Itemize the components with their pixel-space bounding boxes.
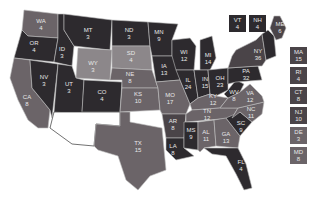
state-box-ev: 4 [229, 24, 246, 31]
state-box-md[interactable]: MD 8 [290, 147, 307, 164]
state-wa[interactable] [22, 10, 58, 38]
svg-text:MI14: MI14 [205, 52, 212, 65]
state-box-ri[interactable]: RI 4 [290, 67, 307, 84]
state-box-ev: 15 [290, 56, 307, 63]
us-map: WA4 OR4 CA8 ID3 NV3 MT3 WY3 UT3 CO4 ND3 … [0, 0, 317, 201]
state-box-nh[interactable]: NH 4 [249, 15, 266, 32]
state-box-ev: 8 [290, 156, 307, 163]
state-box-vt[interactable]: VT 4 [229, 15, 246, 32]
state-box-de[interactable]: DE 3 [290, 127, 307, 144]
svg-text:GA13: GA13 [222, 131, 231, 144]
state-nd[interactable] [112, 20, 150, 46]
svg-text:IN15: IN15 [202, 76, 209, 89]
state-box-ev: 4 [290, 76, 307, 83]
state-fl[interactable] [204, 148, 252, 190]
state-box-ev: 8 [290, 96, 307, 103]
svg-text:TX15: TX15 [134, 140, 142, 153]
state-box-ev: 3 [290, 136, 307, 143]
svg-text:TN12: TN12 [203, 108, 211, 121]
state-box-ev: 10 [290, 116, 307, 123]
svg-text:PA32: PA32 [242, 68, 250, 81]
svg-text:NY36: NY36 [254, 48, 262, 61]
svg-text:KY12: KY12 [209, 93, 217, 106]
svg-text:KS10: KS10 [134, 91, 142, 104]
state-box-ct[interactable]: CT 8 [290, 87, 307, 104]
state-box-ev: 4 [249, 24, 266, 31]
svg-text:OH23: OH23 [216, 75, 225, 88]
state-box-nj[interactable]: NJ 10 [290, 107, 307, 124]
state-box-ma[interactable]: MA 15 [290, 47, 307, 64]
svg-text:VA12: VA12 [246, 90, 254, 103]
svg-text:WI12: WI12 [180, 49, 188, 62]
